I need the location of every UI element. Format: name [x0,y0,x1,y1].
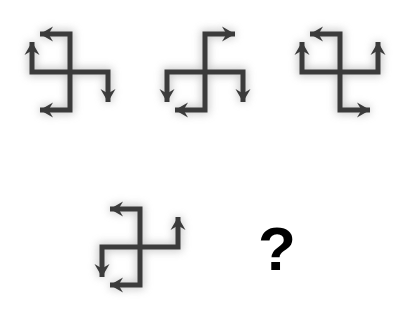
figure-stroke-layer [25,27,116,118]
figure-2[interactable] [135,2,275,142]
bottom-arm-stroke [340,72,370,110]
figure-2-graphic [135,2,275,142]
figure-stroke-layer [95,202,186,293]
bottom-arm-stroke [340,72,370,110]
top-arm-stroke [205,34,235,72]
right-arm-stroke [140,217,178,247]
bottom-arm-stroke [110,247,140,285]
right-arm-stroke [140,217,178,247]
bottom-arm-stroke [40,72,70,110]
figure-4[interactable] [70,177,210,317]
left-arm-stroke [302,42,340,72]
figure-3[interactable] [270,2,405,142]
right-arm-stroke [340,42,378,72]
right-arm-stroke [340,42,378,72]
left-arm-stroke [32,42,70,72]
right-arm-stroke [70,72,108,102]
left-arm-stroke [32,42,70,72]
figure-4-graphic [70,177,210,317]
left-arm-stroke [102,247,140,277]
left-arm-stroke [302,42,340,72]
answer-slot-question-mark[interactable]: ? [258,218,296,280]
figure-3-graphic [270,2,405,142]
figure-stroke-layer [160,27,251,118]
bottom-arm-stroke [40,72,70,110]
right-arm-stroke [70,72,108,102]
top-arm-stroke [110,209,140,247]
left-arm-stroke [167,72,205,102]
top-arm-stroke [205,34,235,72]
right-arm-stroke [205,72,243,102]
top-arm-stroke [40,34,70,72]
puzzle-canvas: Arrow Pinwheel Visual Analogy ? [0,0,405,318]
top-arm-stroke [110,209,140,247]
left-arm-stroke [102,247,140,277]
figure-stroke-layer [295,27,386,118]
figure-1-graphic [0,2,140,142]
top-arm-stroke [310,34,340,72]
bottom-arm-stroke [175,72,205,110]
bottom-arm-stroke [175,72,205,110]
top-arm-stroke [310,34,340,72]
right-arm-stroke [205,72,243,102]
top-arm-stroke [40,34,70,72]
figure-1[interactable] [0,2,140,142]
bottom-arm-stroke [110,247,140,285]
left-arm-stroke [167,72,205,102]
